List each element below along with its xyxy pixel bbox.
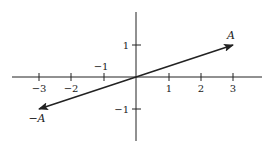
- y-tick-label: −1: [114, 104, 129, 115]
- x-tick-label: −1: [94, 61, 109, 72]
- vector-a: [136, 45, 233, 77]
- vector-diagram: −3 −2 −1 1 2 3 1 −1 A −A: [0, 0, 275, 152]
- x-tick-label: 3: [230, 83, 236, 94]
- diagram-svg: −3 −2 −1 1 2 3 1 −1 A −A: [0, 0, 275, 152]
- vector-neg-a-label: −A: [28, 112, 45, 125]
- x-tick-label: 1: [166, 83, 172, 94]
- y-tick-label: 1: [123, 40, 129, 51]
- x-tick-label: 2: [198, 83, 204, 94]
- x-tick-label: −3: [32, 83, 47, 94]
- x-tick-label: −2: [64, 83, 79, 94]
- vector-a-label: A: [226, 29, 235, 42]
